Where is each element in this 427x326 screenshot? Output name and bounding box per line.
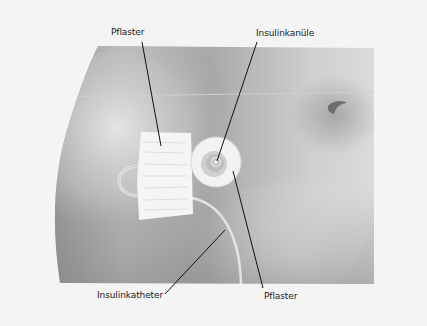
label-pflaster-bottom: Pflaster — [264, 291, 297, 301]
round-patch — [191, 137, 241, 187]
label-insulinkanuele: Insulinkanüle — [256, 28, 314, 38]
label-insulinkatheter: Insulinkatheter — [97, 290, 163, 300]
abdomen-illustration — [0, 0, 427, 326]
label-pflaster-top: Pflaster — [111, 27, 144, 37]
diagram-canvas: Pflaster Insulinkanüle Insulinkatheter P… — [0, 0, 427, 326]
